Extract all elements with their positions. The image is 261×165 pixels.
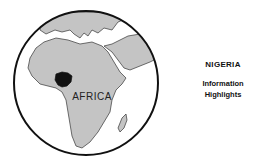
africa-globe-map: AFRICA bbox=[0, 0, 175, 165]
country-title: NIGERIA bbox=[186, 60, 260, 69]
subtitle-line-1: Information bbox=[186, 78, 260, 89]
caption-block: NIGERIA Information Highlights bbox=[186, 60, 260, 100]
africa-label: AFRICA bbox=[72, 91, 112, 102]
subtitle-line-2: Highlights bbox=[186, 89, 260, 100]
